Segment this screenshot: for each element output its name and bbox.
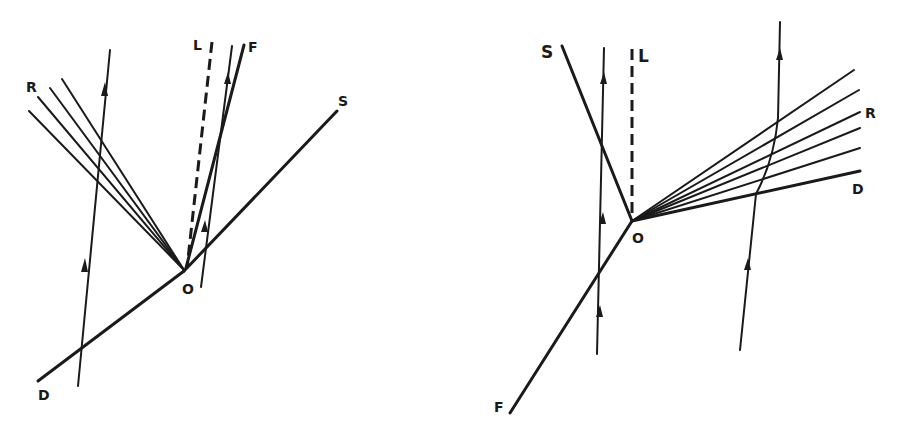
left-fan-R [29, 79, 184, 270]
left-label-O: O [182, 281, 194, 297]
left-label-D: D [38, 387, 50, 403]
arrow-icon [224, 72, 231, 84]
left-line-OD [38, 271, 184, 381]
left-label-S: S [338, 93, 348, 109]
right-label-S: S [541, 42, 553, 62]
right-label-F: F [494, 399, 504, 415]
left-label-L: L [193, 37, 202, 53]
arrow-icon [201, 220, 208, 232]
arrow-icon [600, 72, 607, 84]
right-line-OS [562, 46, 632, 221]
left-label-F: F [248, 39, 258, 55]
shock-wave-diagram: R L F S O D S L [0, 0, 898, 439]
right-line-OF [510, 221, 632, 413]
right-label-O: O [632, 230, 644, 246]
right-streamline-curved [740, 22, 780, 350]
arrow-icon [776, 48, 783, 60]
right-label-D: D [852, 181, 864, 197]
left-streamline-left [78, 50, 110, 386]
right-label-L: L [638, 46, 649, 66]
left-line-OF [186, 45, 244, 268]
right-label-R: R [865, 105, 876, 121]
right-line-OD [632, 171, 860, 221]
right-fan-R [632, 70, 860, 221]
arrow-icon [81, 258, 88, 272]
left-label-R: R [26, 79, 37, 95]
left-diagram: R L F S O D [26, 37, 348, 403]
right-diagram: S L R D O F [494, 22, 876, 415]
